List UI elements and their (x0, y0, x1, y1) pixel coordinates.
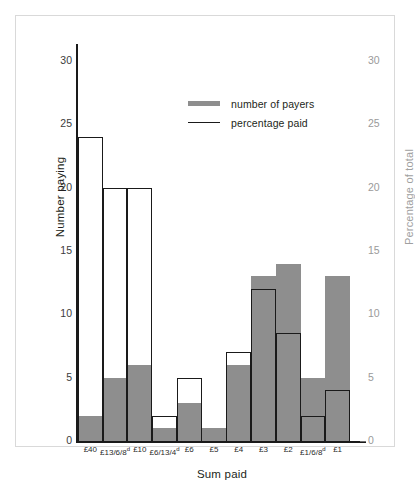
bar-percentage-paid (276, 333, 301, 441)
chart-frame: 051015202530 051015202530 Number paying … (15, 15, 395, 447)
y-tick-right-15: 15 (368, 245, 388, 256)
bar-percentage-paid (301, 416, 326, 441)
legend-item-percentage-paid: percentage paid (188, 113, 358, 132)
bar-percentage-paid (78, 137, 103, 441)
chart-legend: number of payers percentage paid (188, 94, 358, 132)
y-tick-right-5: 5 (368, 372, 388, 383)
y-tick-right-10: 10 (368, 308, 388, 319)
y-tick-left-30: 30 (46, 55, 72, 66)
y-tick-right-25: 25 (368, 118, 388, 129)
bar-percentage-paid (103, 188, 128, 441)
y-tick-left-5: 5 (46, 372, 72, 383)
x-axis-line (76, 441, 366, 443)
legend-swatch-gray-bar-icon (188, 101, 220, 106)
legend-label-number-of-payers: number of payers (231, 98, 314, 110)
bar-percentage-paid (325, 390, 350, 441)
bar-number-of-payers (202, 428, 227, 441)
y-tick-left-10: 10 (46, 308, 72, 319)
y-axis-right-ticks: 051015202530 (368, 16, 398, 481)
x-tick-label: £1 (313, 446, 362, 454)
y-axis-right-title: Percentage of total (403, 122, 415, 272)
legend-label-percentage-paid: percentage paid (231, 117, 308, 129)
legend-swatch-black-line-icon (188, 122, 220, 123)
bar-percentage-paid (226, 352, 251, 441)
bar-percentage-paid (251, 289, 276, 441)
y-tick-right-dash-icon (360, 441, 366, 442)
y-axis-left-title: Number paying (54, 127, 66, 267)
y-tick-right-20: 20 (368, 182, 388, 193)
x-axis-title: Sum paid (76, 468, 368, 480)
bar-percentage-paid (152, 416, 177, 441)
y-tick-left-0: 0 (46, 435, 72, 446)
legend-item-number-of-payers: number of payers (188, 94, 358, 113)
bar-percentage-paid (177, 378, 202, 441)
y-tick-right-0: 0 (368, 435, 388, 446)
bar-percentage-paid (127, 188, 152, 441)
y-tick-right-30: 30 (368, 55, 388, 66)
